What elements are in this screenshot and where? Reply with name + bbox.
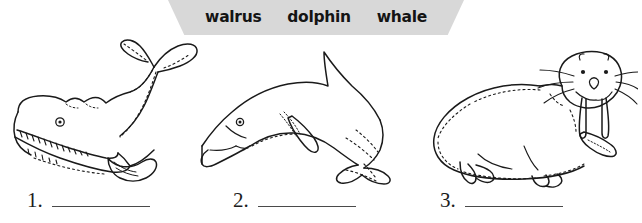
answer-item-3: 3.	[440, 190, 563, 211]
dolphin-illustration	[196, 34, 406, 189]
walrus-illustration	[420, 34, 638, 189]
answer-item-2: 2.	[233, 190, 356, 211]
answer-blank-3[interactable]	[465, 192, 563, 207]
word-bank: walrus dolphin whale	[168, 0, 464, 35]
answer-number-3: 3.	[440, 190, 456, 211]
word-bank-item-walrus[interactable]: walrus	[205, 8, 261, 26]
answer-item-1: 1.	[27, 190, 150, 211]
word-bank-item-whale[interactable]: whale	[377, 8, 427, 26]
answer-blank-1[interactable]	[52, 192, 150, 207]
answer-number-1: 1.	[27, 190, 43, 211]
word-bank-item-dolphin[interactable]: dolphin	[287, 8, 350, 26]
answer-blank-2[interactable]	[258, 192, 356, 207]
dolphin-line-drawing	[201, 52, 390, 184]
word-bank-word-list: walrus dolphin whale	[168, 0, 464, 35]
whale-line-drawing	[14, 40, 197, 181]
answer-lines: 1. 2. 3.	[0, 190, 642, 223]
answer-number-2: 2.	[233, 190, 249, 211]
walrus-line-drawing	[434, 52, 638, 188]
whale-illustration	[4, 34, 209, 189]
